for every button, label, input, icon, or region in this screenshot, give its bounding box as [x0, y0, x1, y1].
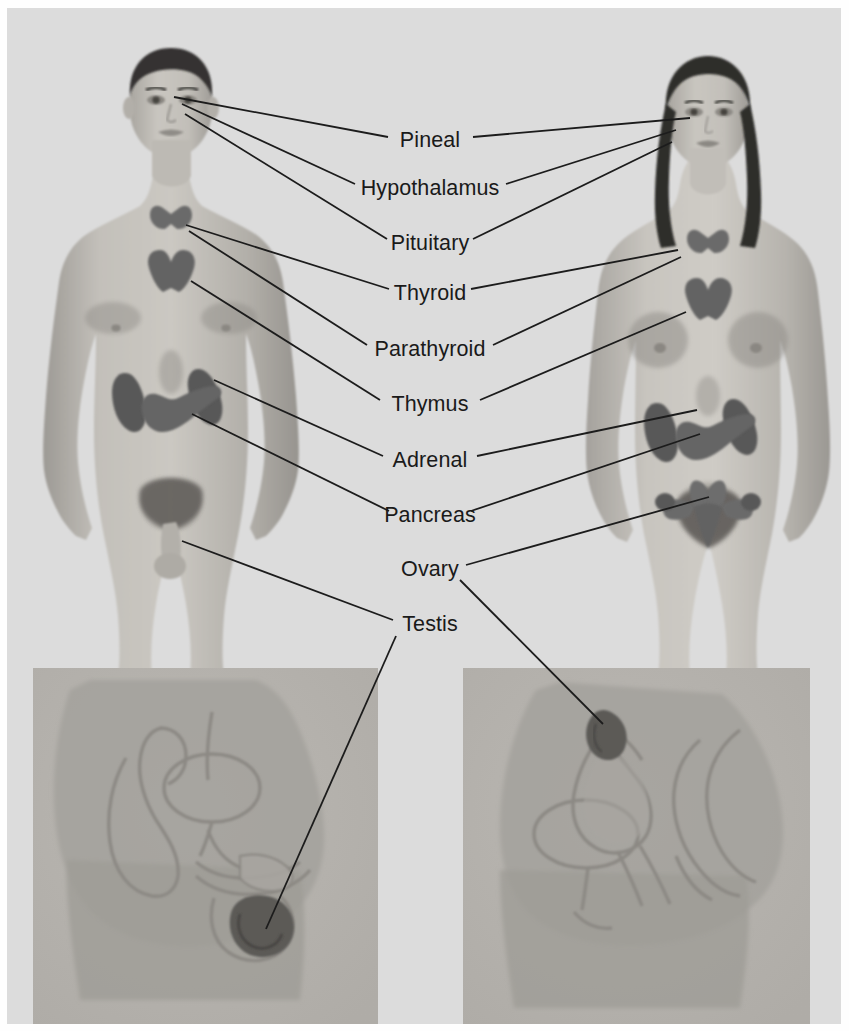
label-parathyroid: Parathyroid — [374, 339, 485, 361]
leader-line-hypothalamus-to-male — [182, 104, 355, 184]
female-ovary-left — [655, 493, 675, 511]
label-testis: Testis — [402, 614, 458, 636]
label-hypothalamus: Hypothalamus — [361, 178, 500, 200]
leader-line-hypothalamus-to-female — [506, 130, 676, 184]
leader-line-pineal-to-female — [473, 118, 690, 137]
label-pancreas: Pancreas — [384, 505, 476, 527]
female-ovary-right — [741, 493, 761, 511]
label-adrenal: Adrenal — [393, 450, 468, 472]
male-anterior-figure — [43, 48, 299, 676]
label-ovary: Ovary — [401, 559, 459, 581]
label-pituitary: Pituitary — [391, 233, 470, 255]
leader-line-pituitary-to-female — [473, 142, 672, 239]
label-pineal: Pineal — [400, 130, 460, 152]
diagram-stage: PinealHypothalamusPituitaryThyroidParath… — [0, 0, 849, 1031]
female-anterior-figure — [586, 56, 830, 676]
label-thymus: Thymus — [391, 394, 468, 416]
male-pelvis-inset-panel — [33, 668, 378, 1024]
label-thyroid: Thyroid — [394, 283, 466, 305]
female-pelvis-inset-panel — [463, 668, 810, 1024]
